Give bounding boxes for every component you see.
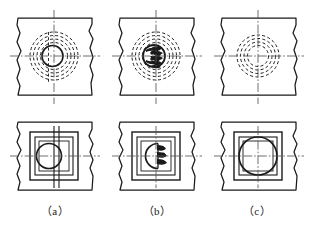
figure-canvas xyxy=(0,0,319,232)
drawing-svg xyxy=(0,0,319,232)
panel-a-front xyxy=(10,122,100,190)
caption-a: （a） xyxy=(10,202,100,218)
plate-outline-c-top xyxy=(221,18,297,95)
panel-c-top xyxy=(214,10,304,104)
caption-c: （c） xyxy=(212,202,302,218)
panel-b-front xyxy=(112,122,202,190)
caption-b: （b） xyxy=(112,202,202,218)
panel-b-top xyxy=(112,10,202,104)
plate-outline-a-top xyxy=(17,18,93,95)
panel-a-top xyxy=(10,10,100,104)
panel-c-front xyxy=(214,122,304,190)
